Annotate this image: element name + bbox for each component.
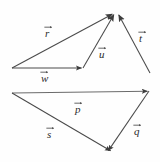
vector-p-line: [12, 91, 147, 93]
upper-figure-group: [12, 14, 150, 73]
vector-r-line: [12, 14, 112, 68]
vector-canvas: [0, 0, 160, 162]
vector-arrow-overline-icon: [98, 46, 107, 50]
vector-label-t: t: [139, 30, 142, 44]
vector-arrow-overline-icon: [138, 30, 147, 34]
vector-u-line: [83, 15, 114, 68]
vector-arrow-overline-icon: [133, 123, 142, 127]
vector-label-w: w: [41, 70, 48, 84]
vector-arrow-overline-icon: [44, 25, 53, 29]
vector-arrow-overline-icon: [46, 126, 55, 130]
vector-label-q: q: [134, 123, 140, 137]
vector-arrow-overline-icon: [74, 101, 83, 105]
lower-figure-group: [12, 91, 149, 151]
vector-label-r: r: [45, 25, 49, 39]
vector-label-s: s: [47, 126, 51, 140]
vector-diagram-figure: r w u t: [0, 0, 160, 162]
vector-label-u: u: [99, 46, 105, 60]
vector-t-line: [119, 15, 150, 73]
vector-q-line: [108, 91, 149, 151]
vector-label-p: p: [75, 101, 81, 115]
vector-s-line: [12, 93, 111, 151]
vector-arrow-overline-icon: [40, 70, 49, 74]
